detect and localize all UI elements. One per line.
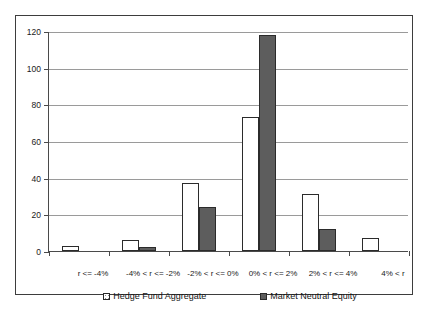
bar-series-layer [49,32,408,251]
bar-0-2 [182,183,199,251]
x-axis-tick [109,251,110,256]
x-axis-label: 2% < r <= 4% [299,269,367,279]
legend-item-market-neutral-equity: Market Neutral Equity [260,292,357,301]
x-axis-tick [289,251,290,256]
legend-label: Market Neutral Equity [270,292,357,301]
legend-item-hedge-fund-aggregate: Hedge Fund Aggregate [103,292,206,301]
legend-swatch-dark-icon [260,293,267,300]
y-axis-tick-label: 60 [32,138,41,147]
chart-legend: Hedge Fund Aggregate Market Neutral Equi… [31,292,429,301]
x-axis-category-labels: r <= -4%-4% < r <= -2%-2% < r <= 0%0% < … [63,269,423,291]
y-axis-tick-label: 40 [32,174,41,183]
x-axis-label: 4% < r [359,269,427,279]
x-axis-label: -2% < r <= 0% [179,269,247,279]
chart-frame: 020406080100120 r <= -4%-4% < r <= -2%-2… [15,15,413,295]
x-axis-tick [49,251,50,256]
bar-1-2 [199,207,216,251]
x-axis-tick [409,251,410,256]
y-axis-tick-label: 80 [32,101,41,110]
bar-0-1 [122,240,139,251]
bar-0-5 [362,238,379,251]
bar-0-4 [302,194,319,251]
x-axis-tick [349,251,350,256]
legend-swatch-light-icon [103,293,110,300]
bar-1-1 [139,247,156,251]
x-axis-label: r <= -4% [59,269,127,279]
plot-area: 020406080100120 [48,32,408,252]
legend-label: Hedge Fund Aggregate [113,292,206,301]
bar-1-3 [259,35,276,251]
y-axis-tick-label: 0 [36,248,41,257]
bar-1-4 [319,229,336,251]
bar-0-3 [242,117,259,251]
y-axis-tick-label: 120 [27,28,41,37]
y-axis-tick-label: 100 [27,64,41,73]
x-axis-label: 0% < r <= 2% [239,269,307,279]
bar-0-0 [62,246,79,252]
y-axis-tick-label: 20 [32,211,41,220]
x-axis-tick [229,251,230,256]
x-axis-label: -4% < r <= -2% [119,269,187,279]
x-axis-tick [169,251,170,256]
